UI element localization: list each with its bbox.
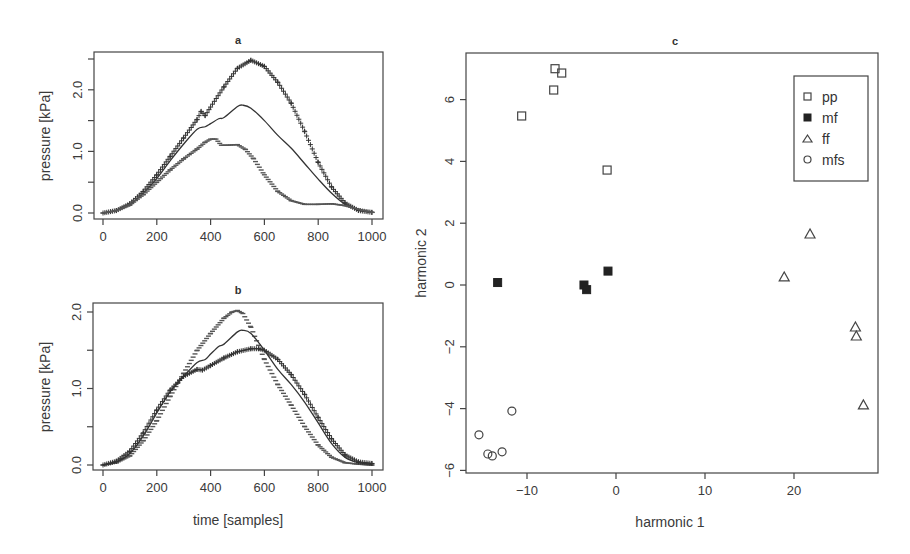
point-ff [851,331,861,340]
panel-b-x-axis: 02004006008001000 [99,470,386,495]
panel-c-y-axis-label: harmonic 2 [413,228,429,297]
panel-c-legend: pp mf ff mfs [794,76,868,181]
x-tick-label: 600 [254,480,276,495]
panel-c-plot-frame [466,53,878,473]
panel-b-time-series: b 0.01.02.0 02004006008001000 pressure [… [37,284,386,528]
x-tick-label: 800 [307,229,329,244]
y-tick-label: −6 [442,463,457,478]
dash-marker-series [101,139,375,213]
figure: a 0.01.02.0 02004006008001000 pressure [… [0,0,910,554]
point-mfs [498,448,506,456]
point-pp [603,166,611,174]
open-triangle-icon [803,135,812,142]
point-pp [518,112,526,120]
panel-c-x-axis-label: harmonic 1 [635,514,704,530]
panel-b-y-axis: 0.01.02.0 [69,303,93,474]
panel-b-y-axis-label: pressure [kPa] [37,342,53,432]
panel-b-x-axis-label: time [samples] [193,512,283,528]
legend-item-mfs: mfs [804,152,845,168]
panel-a-y-axis: 0.01.02.0 [70,59,94,222]
x-tick-label: −10 [516,483,538,498]
y-tick-label: 4 [442,158,457,165]
y-tick-label: 1.0 [70,142,85,160]
series-pp [518,65,611,174]
x-tick-label: 10 [698,483,712,498]
series-mf [494,267,612,294]
panel-a-y-axis-label: pressure [kPa] [37,91,53,181]
panel-b-title: b [235,284,242,296]
panel-a-title: a [235,34,242,46]
x-tick-label: 600 [254,229,276,244]
panel-c-title: c [672,35,678,47]
y-tick-label: 2 [442,220,457,227]
point-ff [850,322,860,331]
panel-c-scatter: c −6−4−20246 −1001020 harmonic 2 harmoni… [413,35,878,530]
panel-a-time-series: a 0.01.02.0 02004006008001000 pressure [… [37,34,386,244]
x-tick-label: 0 [612,483,619,498]
panel-c-y-axis: −6−4−20246 [442,96,466,478]
legend-item-ff: ff [803,131,830,147]
x-tick-label: 800 [307,480,329,495]
point-mf [583,286,591,294]
y-tick-label: 0.0 [70,204,85,222]
y-tick-label: −2 [442,339,457,354]
point-mf [604,267,612,275]
y-tick-label: 2.0 [69,303,84,321]
point-ff [779,272,789,281]
x-tick-label: 1000 [358,480,387,495]
panel-c-x-axis: −1001020 [516,473,801,498]
point-mfs [508,407,516,415]
filled-square-icon [804,114,811,121]
plus-marker-series [101,58,375,216]
legend-label-pp: pp [822,89,838,105]
x-tick-label: 400 [200,229,222,244]
open-circle-icon [804,156,811,163]
x-tick-label: 20 [787,483,801,498]
panel-b-series [101,310,375,467]
panel-a-series [101,58,375,216]
y-tick-label: 6 [442,96,457,103]
point-mf [494,279,502,287]
legend-label-mfs: mfs [822,152,845,168]
x-tick-label: 400 [200,480,222,495]
x-tick-label: 0 [99,480,106,495]
series-mfs [475,407,516,460]
y-tick-label: 1.0 [69,379,84,397]
y-tick-label: 0.0 [69,456,84,474]
series-ff [779,229,868,409]
legend-item-pp: pp [804,89,838,105]
x-tick-label: 1000 [358,229,387,244]
panel-c-points [475,65,868,460]
x-tick-label: 200 [146,480,168,495]
x-tick-label: 200 [146,229,168,244]
point-ff [858,400,868,409]
legend-label-mf: mf [822,110,838,126]
point-mfs [475,431,483,439]
legend-item-mf: mf [804,110,838,126]
legend-label-ff: ff [822,131,830,147]
point-pp [550,86,558,94]
y-tick-label: 0 [442,281,457,288]
plus-marker-series [101,346,375,467]
open-square-icon [804,93,811,100]
point-ff [805,229,815,238]
y-tick-label: 2.0 [70,81,85,99]
y-tick-label: −4 [442,401,457,416]
x-tick-label: 0 [99,229,106,244]
panel-a-x-axis: 02004006008001000 [99,219,386,244]
